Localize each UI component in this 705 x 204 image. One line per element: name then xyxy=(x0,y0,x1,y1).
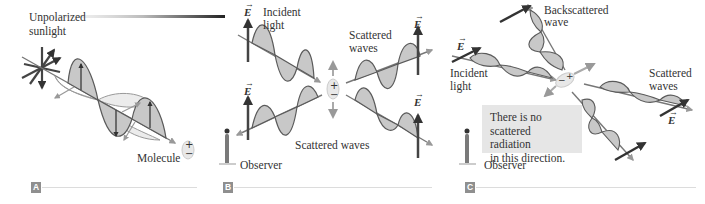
e-vector-label-c1: →E xyxy=(457,40,464,52)
observer-figure-b xyxy=(219,129,236,165)
molecule-plus-c: + xyxy=(566,70,574,82)
panel-badge-a: A xyxy=(31,182,41,193)
incident-light-label-b-1: Incident xyxy=(263,6,301,18)
e-vector-label-b1: →E xyxy=(244,6,251,18)
panel-rule-c xyxy=(476,187,696,188)
panel-badge-c: C xyxy=(465,182,475,193)
observer-label-b: Observer xyxy=(240,159,282,171)
note-line-1: There is no xyxy=(490,111,574,125)
scattered-waves-label-upper-1: Scattered xyxy=(349,29,392,41)
e-vector-label-b4: →E xyxy=(414,96,421,108)
observer-figure-c xyxy=(459,129,476,165)
e-vector-label-b3: →E xyxy=(414,18,421,30)
vertical-wave xyxy=(68,59,98,100)
observer-label-c: Observer xyxy=(484,159,526,171)
note-line-2: scattered radiation xyxy=(490,125,574,152)
molecule-minus-c: − xyxy=(558,74,566,86)
backscattered-wave-label-1: Backscattered xyxy=(544,4,609,16)
scattered-waves-label-lower: Scattered waves xyxy=(295,139,369,151)
molecule-minus-b: − xyxy=(330,89,338,101)
panel-badge-b: B xyxy=(223,182,233,193)
e-vector-label-c2: →E xyxy=(668,114,675,126)
molecule-minus-a: − xyxy=(185,148,193,160)
unpolarized-sunlight-label-1: Unpolarized xyxy=(29,11,86,23)
incident-light-label-b-2: light xyxy=(263,19,284,31)
no-scatter-note: There is no scattered radiation in this … xyxy=(482,105,582,153)
molecule-label: Molecule xyxy=(137,152,180,164)
unpolarized-sunlight-label-2: sunlight xyxy=(29,25,66,37)
backscattered-wave-label-2: wave xyxy=(544,16,568,28)
panel-rule-b xyxy=(234,187,432,188)
incident-light-label-c-2: light xyxy=(450,80,471,92)
panel-rule-a xyxy=(42,187,197,188)
scattered-waves-label-upper-2: waves xyxy=(349,42,378,54)
incident-light-label-c-1: Incident xyxy=(450,67,488,79)
e-vector-label-b2: →E xyxy=(244,85,251,97)
scattered-waves-label-c-2: waves xyxy=(649,80,678,92)
scattered-waves-label-c-1: Scattered xyxy=(649,67,692,79)
